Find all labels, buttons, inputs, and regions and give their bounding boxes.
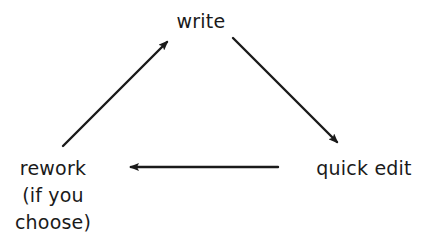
node-quick-edit: quick edit <box>312 155 416 182</box>
arrow-write-to-quick-edit <box>233 38 337 142</box>
node-rework-line-2: (if you <box>5 182 101 209</box>
node-rework-line-3: choose) <box>5 209 101 236</box>
cycle-diagram: write quick edit rework (if you choose) <box>0 0 422 250</box>
node-rework-line-1: rework <box>5 155 101 182</box>
node-rework: rework (if you choose) <box>5 155 101 236</box>
arrow-rework-to-write <box>63 42 167 146</box>
node-write: write <box>171 8 231 35</box>
